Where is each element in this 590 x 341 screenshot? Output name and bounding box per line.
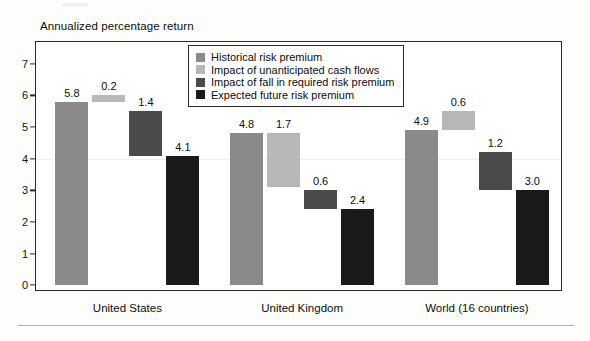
x-axis-category-label: United States <box>93 302 162 314</box>
y-axis-tick-label: 4 <box>6 153 28 165</box>
bar-value-label: 4.1 <box>175 141 190 153</box>
footer-rule <box>18 325 574 326</box>
y-axis-tick-mark <box>30 190 36 191</box>
legend-item-label: Impact of fall in required risk premium <box>211 76 394 89</box>
y-axis-tick-label: 6 <box>6 89 28 101</box>
bar-value-label: 2.4 <box>350 194 365 206</box>
legend-item-label: Impact of unanticipated cash flows <box>211 64 379 77</box>
bar-value-label: 0.6 <box>313 175 328 187</box>
bar-3-group-2[interactable] <box>304 190 337 209</box>
legend-swatch-icon <box>196 53 205 62</box>
bar-4-group-1[interactable] <box>166 156 199 286</box>
y-axis-tick-label: 1 <box>6 248 28 260</box>
legend-item[interactable]: Impact of fall in required risk premium <box>196 76 394 89</box>
bar-value-label: 4.8 <box>239 118 254 130</box>
legend-item[interactable]: Historical risk premium <box>196 51 394 64</box>
legend-item[interactable]: Impact of unanticipated cash flows <box>196 64 394 77</box>
plot-frame: 012345675.80.21.44.1United States4.81.70… <box>35 41 562 291</box>
legend-swatch-icon <box>196 90 205 99</box>
y-axis-tick-label: 5 <box>6 121 28 133</box>
legend-swatch-icon <box>196 65 205 74</box>
scan-artifact <box>62 3 88 7</box>
chart-legend: Historical risk premiumImpact of unantic… <box>188 45 404 107</box>
bar-value-label: 1.2 <box>488 137 503 149</box>
bar-value-label: 4.9 <box>414 115 429 127</box>
bar-3-group-3[interactable] <box>479 152 512 190</box>
y-axis-tick-label: 2 <box>6 216 28 228</box>
bar-value-label: 1.7 <box>276 118 291 130</box>
bar-3-group-1[interactable] <box>129 111 162 155</box>
bar-2-group-1[interactable] <box>92 95 125 101</box>
bar-1-group-2[interactable] <box>230 133 263 285</box>
y-axis-tick-label: 7 <box>6 58 28 70</box>
bar-value-label: 3.0 <box>525 175 540 187</box>
bar-2-group-3[interactable] <box>442 111 475 130</box>
y-axis-tick-mark <box>30 253 36 254</box>
x-axis-category-label: World (16 countries) <box>425 302 528 314</box>
legend-item-label: Expected future risk premium <box>211 89 354 102</box>
bar-2-group-2[interactable] <box>267 133 300 187</box>
legend-item[interactable]: Expected future risk premium <box>196 89 394 102</box>
y-axis-tick-mark <box>30 63 36 64</box>
bar-4-group-3[interactable] <box>516 190 549 285</box>
bar-1-group-3[interactable] <box>405 130 438 285</box>
legend-swatch-icon <box>196 78 205 87</box>
y-axis-tick-mark <box>30 285 36 286</box>
bar-value-label: 0.2 <box>101 80 116 92</box>
bar-4-group-2[interactable] <box>341 209 374 285</box>
y-axis-tick-mark <box>30 126 36 127</box>
y-axis-tick-mark <box>30 221 36 222</box>
bar-value-label: 1.4 <box>138 96 153 108</box>
chart-title: Annualized percentage return <box>40 20 194 32</box>
y-axis-tick-label: 0 <box>6 279 28 291</box>
legend-item-label: Historical risk premium <box>211 51 322 64</box>
y-axis-tick-label: 3 <box>6 184 28 196</box>
y-axis-tick-mark <box>30 95 36 96</box>
bar-1-group-1[interactable] <box>55 102 88 285</box>
x-axis-category-label: United Kingdom <box>261 302 343 314</box>
bar-value-label: 0.6 <box>451 96 466 108</box>
bar-value-label: 5.8 <box>64 87 79 99</box>
